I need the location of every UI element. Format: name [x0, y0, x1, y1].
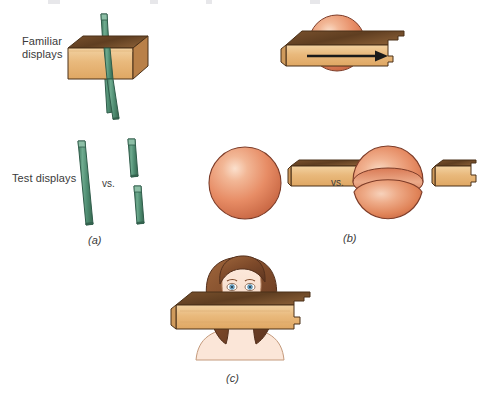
panel-a-familiar-display [68, 14, 148, 120]
label-vs-panel-b: vs. [331, 177, 344, 188]
label-test-displays: Test displays [12, 172, 82, 185]
caption-panel-b: (b) [343, 232, 356, 244]
label-vs-panel-a: vs. [102, 178, 115, 189]
board-panel-c [171, 292, 310, 329]
panel-b-test-right [353, 146, 476, 219]
panel-b-familiar-display [281, 15, 404, 71]
label-familiar-displays: Familiar displays [22, 35, 84, 61]
panel-a-test-display-right [128, 139, 144, 224]
caption-panel-c: (c) [226, 372, 239, 384]
figure-canvas: Familiar displays Test displays vs. vs. … [0, 0, 480, 396]
block-test-b-right [432, 160, 476, 186]
board-familiar-b [281, 31, 404, 66]
torso [196, 327, 284, 360]
caption-panel-a: (a) [88, 234, 101, 246]
panel-c-face-display [171, 256, 310, 360]
